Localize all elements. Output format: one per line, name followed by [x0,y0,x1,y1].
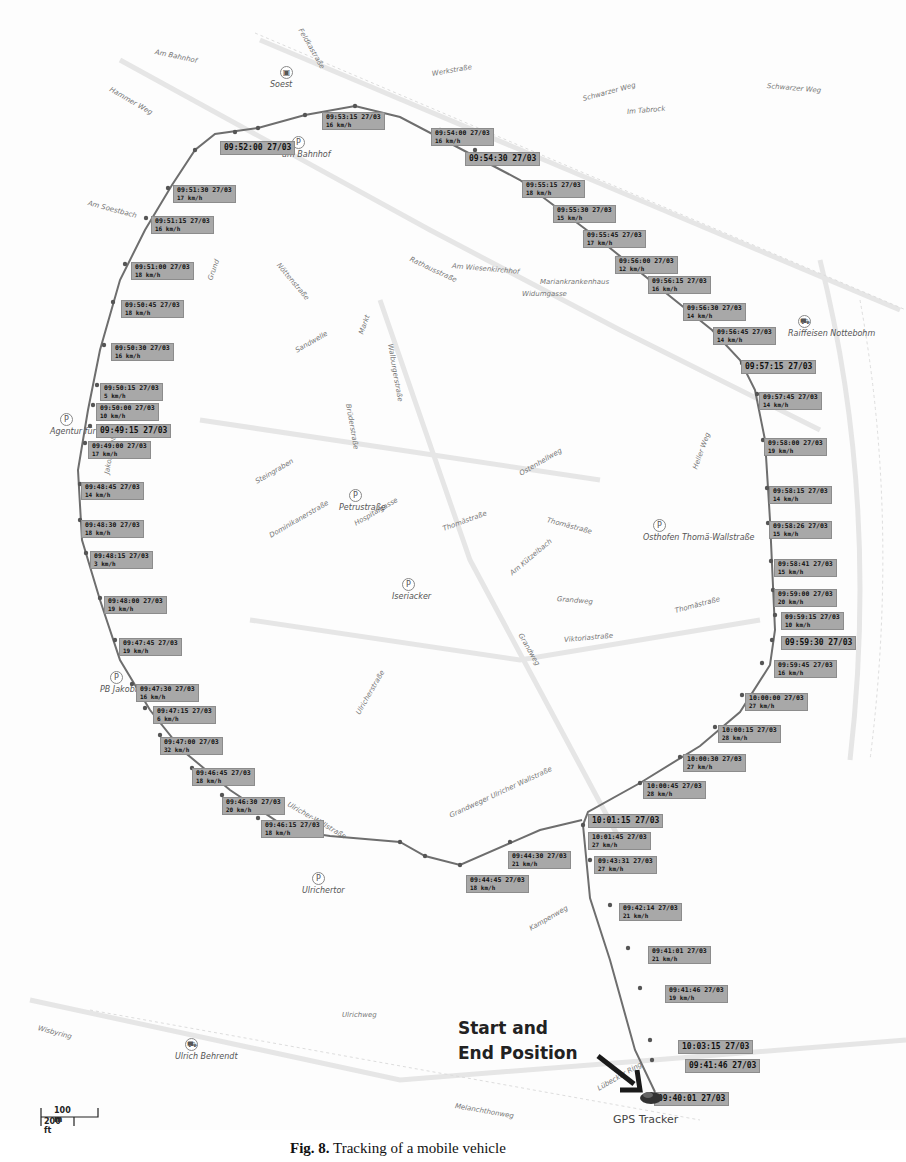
map-canvas[interactable]: Am BahnhofHammer WegFeldkastraßeWerkstra… [0,0,906,1130]
start-end-annotation: Start and End Position [458,1016,578,1066]
annotation-line-2: End Position [458,1041,578,1066]
caption-text: Tracking of a mobile vehicle [333,1140,506,1156]
gps-tracker-car-icon[interactable] [0,0,906,1130]
annotation-line-1: Start and [458,1016,578,1041]
caption-prefix: Fig. 8. [290,1140,330,1156]
scale-imperial: 200 ft [44,1117,61,1135]
figure-caption: Fig. 8. Tracking of a mobile vehicle [290,1140,506,1157]
gps-tracker-label: GPS Tracker [613,1113,678,1126]
